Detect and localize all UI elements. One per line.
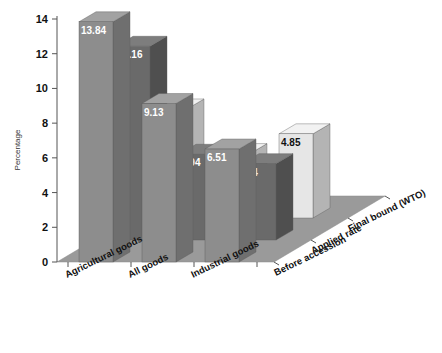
- bar-front-face: [79, 22, 113, 262]
- y-axis-title-text: Percentage: [13, 129, 22, 170]
- y-tick-label: 0: [42, 256, 48, 268]
- y-tick-label: 2: [42, 221, 48, 233]
- bar-value-label: 13.84: [81, 25, 106, 36]
- bar-value-label: 9.13: [144, 107, 164, 118]
- chart-container: 02468101214 4.853.716.284.44.9411.166.51…: [0, 0, 442, 353]
- bar-side-face: [313, 124, 330, 218]
- y-axis-title: Percentage: [13, 129, 22, 170]
- y-tick-label: 12: [36, 48, 48, 60]
- bar-0-1: 9.13: [142, 94, 193, 262]
- y-tick-label: 4: [42, 187, 49, 199]
- y-tick-label: 14: [36, 13, 49, 25]
- bar-value-label: 6.51: [207, 152, 227, 163]
- bar-value-label: 4.85: [281, 137, 301, 148]
- bar-chart-3d: 02468101214 4.853.716.284.44.9411.166.51…: [0, 0, 442, 353]
- y-tick-label: 10: [36, 82, 48, 94]
- bar-front-face: [142, 104, 176, 262]
- bar-side-face: [113, 12, 130, 262]
- bar-0-0: 13.84: [79, 12, 130, 262]
- bar-side-face: [176, 94, 193, 262]
- y-tick-label: 6: [42, 152, 48, 164]
- bar-side-face: [276, 154, 293, 240]
- bar-front-face: [205, 149, 239, 262]
- y-tick-label: 8: [42, 117, 48, 129]
